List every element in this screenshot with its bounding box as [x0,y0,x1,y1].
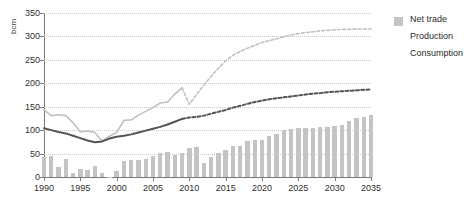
legend-item-consumption[interactable]: Consumption [394,46,464,63]
legend-label: Production [410,31,453,41]
gridline [44,177,371,178]
chart-root: bcm 050100150200250300350 19901995200020… [0,0,464,202]
x-axis-tick-mark [298,177,299,181]
x-axis-tick-mark [80,177,81,181]
line-series-group [44,13,371,177]
y-axis-unit-label: bcm [9,7,18,47]
chart-title-fragment [0,0,300,3]
y-axis-tick-label: 350 [25,8,40,18]
x-axis-tick-label: 2015 [216,183,236,193]
x-axis-tick-mark [44,177,45,181]
x-axis-tick-label: 2010 [179,183,199,193]
y-axis-tick-label: 250 [25,55,40,65]
plot-area: 050100150200250300350 199019952000200520… [44,13,371,177]
x-axis-tick-mark [117,177,118,181]
legend-label: Consumption [410,48,463,58]
x-axis-tick-mark [226,177,227,181]
y-axis-tick-label: 200 [25,78,40,88]
line-production-projected [182,29,371,104]
y-axis-tick-label: 300 [25,31,40,41]
x-axis-tick-label: 2025 [288,183,308,193]
x-axis-tick-mark [262,177,263,181]
y-axis-tick-label: 150 [25,102,40,112]
x-axis-tick-mark [371,177,372,181]
x-axis-tick-label: 1995 [70,183,90,193]
x-axis-tick-label: 2000 [107,183,127,193]
x-axis-tick-label: 2035 [361,183,381,193]
x-axis-tick-mark [335,177,336,181]
x-axis-tick-label: 1990 [34,183,54,193]
legend-swatch-icon [394,17,403,26]
x-axis-tick-mark [189,177,190,181]
x-axis-tick-label: 2020 [252,183,272,193]
x-axis-tick-mark [153,177,154,181]
x-axis-tick-label: 2030 [325,183,345,193]
legend-item-production[interactable]: Production [394,29,464,46]
y-axis-tick-label: 100 [25,125,40,135]
line-consumption-projected [182,89,371,119]
line-consumption-historical [44,119,182,142]
legend-item-net-trade[interactable]: Net trade [394,12,464,29]
legend-label: Net trade [410,14,447,24]
y-axis-tick-label: 50 [30,149,40,159]
chart-legend: Net tradeProductionConsumption [394,12,464,63]
x-axis-tick-label: 2005 [143,183,163,193]
